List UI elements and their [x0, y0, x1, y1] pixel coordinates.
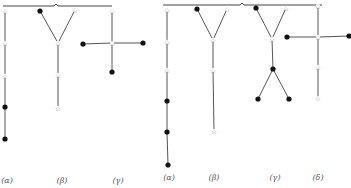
- star-node-icon: ☆: [315, 95, 321, 103]
- filled-node-icon: [2, 136, 7, 141]
- tree-label: (γ): [269, 173, 280, 182]
- star-node-icon: ☆: [315, 64, 321, 72]
- tree-edge: [83, 43, 112, 44]
- filled-node-icon: [270, 66, 275, 71]
- filled-node-icon: [164, 129, 169, 134]
- tree-edge: [58, 10, 75, 43]
- tree: ☆☆☆☆(δ): [284, 3, 351, 183]
- tree-edge: [272, 8, 286, 39]
- star-node-icon: ☆: [109, 40, 115, 48]
- filled-node-icon: [2, 104, 7, 109]
- filled-node-icon: [194, 6, 199, 11]
- tree-edge: [213, 70, 214, 131]
- star-node-icon: ☆: [2, 73, 8, 81]
- star-node-icon: ☆: [72, 7, 78, 15]
- star-node-icon: ☆: [269, 36, 275, 44]
- star-node-icon: ☆: [55, 72, 61, 80]
- filled-node-icon: [165, 162, 170, 167]
- filled-node-icon: [109, 69, 114, 74]
- filled-node-icon: [164, 98, 169, 103]
- star-node-icon: ☆: [164, 39, 170, 47]
- star-node-icon: ☆: [55, 40, 61, 48]
- star-node-icon: ☆: [224, 6, 230, 14]
- star-node-icon: ☆: [315, 34, 321, 42]
- filled-node-icon: [346, 33, 351, 38]
- star-node-icon: ☆: [55, 105, 61, 113]
- star-node-icon: ☆: [164, 7, 170, 15]
- star-node-icon: ☆: [210, 37, 216, 45]
- star-node-icon: ☆: [211, 128, 217, 136]
- filled-node-icon: [140, 40, 145, 45]
- star-node-icon: ☆: [2, 40, 8, 48]
- tree-edge: [273, 69, 289, 99]
- tree-edge: [272, 39, 273, 69]
- tree: ☆☆☆☆(β): [194, 6, 230, 183]
- tree-group-right: ☆☆☆(α)☆☆☆☆(β)☆☆(γ)☆☆☆☆(δ): [163, 3, 351, 183]
- filled-node-icon: [80, 41, 85, 46]
- tree-label: (β): [57, 176, 68, 185]
- tree: ☆☆(γ): [253, 5, 291, 183]
- tree-label: (δ): [312, 173, 323, 182]
- tree-label: (α): [163, 173, 175, 182]
- tree: ☆☆☆☆(β): [37, 7, 78, 186]
- tree-edge: [258, 69, 273, 99]
- tree-edge: [318, 36, 349, 37]
- tree-group-left: ☆☆☆(α)☆☆☆☆(β)☆☆(γ): [1, 4, 145, 185]
- filled-node-icon: [37, 8, 42, 13]
- tree: ☆☆(γ): [80, 8, 145, 186]
- star-node-icon: ☆: [210, 67, 216, 75]
- star-node-icon: ☆: [109, 8, 115, 16]
- star-node-icon: ☆: [283, 5, 289, 13]
- star-node-icon: ☆: [164, 67, 170, 75]
- star-node-icon: ☆: [2, 8, 8, 16]
- tree: ☆☆☆(α): [163, 7, 175, 183]
- tree-edge: [213, 9, 227, 40]
- filled-node-icon: [284, 34, 289, 39]
- tree-label: (γ): [112, 176, 123, 185]
- filled-node-icon: [286, 96, 291, 101]
- tree-label: (β): [209, 173, 220, 182]
- tree-label: (α): [1, 176, 13, 185]
- tree-edge: [40, 11, 58, 43]
- tree-diagram: ☆☆☆(α)☆☆☆☆(β)☆☆(γ)☆☆☆(α)☆☆☆☆(β)☆☆(γ)☆☆☆☆…: [0, 0, 351, 188]
- filled-node-icon: [253, 5, 258, 10]
- star-node-icon: ☆: [315, 3, 321, 11]
- tree-edge: [256, 8, 272, 39]
- tree-edge: [167, 132, 168, 165]
- tree: ☆☆☆(α): [1, 8, 13, 186]
- filled-node-icon: [255, 96, 260, 101]
- group-bracket: [163, 3, 322, 5]
- group-bracket: [3, 4, 112, 6]
- tree-edge: [197, 9, 213, 40]
